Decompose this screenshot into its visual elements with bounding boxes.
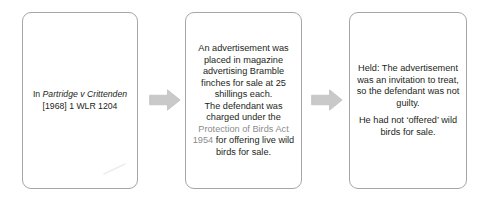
case-citation-box: In Partridge v Crittenden [1968] 1 WLR 1… bbox=[22, 12, 138, 189]
case-held-text: Held: The advertisement was an invitatio… bbox=[350, 63, 466, 138]
citation-prefix: In bbox=[33, 89, 43, 99]
held-paragraph-1: Held: The advertisement was an invitatio… bbox=[357, 63, 460, 108]
case-facts-text: An advertisement was placed in magazine … bbox=[186, 43, 301, 158]
case-held-box: Held: The advertisement was an invitatio… bbox=[349, 12, 467, 189]
case-citation-text: In Partridge v Crittenden [1968] 1 WLR 1… bbox=[23, 89, 137, 112]
citation-reference: [1968] 1 WLR 1204 bbox=[43, 101, 118, 111]
case-flow-diagram: In Partridge v Crittenden [1968] 1 WLR 1… bbox=[0, 0, 489, 200]
right-block-arrow-icon bbox=[311, 89, 343, 111]
case-facts-box: An advertisement was placed in magazine … bbox=[185, 12, 302, 189]
case-name-text: Partridge v Crittenden bbox=[43, 89, 128, 99]
facts-text-before-statute: An advertisement was placed in magazine … bbox=[198, 43, 288, 122]
facts-text-after-statute: for offering live wild birds for sale. bbox=[213, 135, 294, 157]
scan-artifact-mark bbox=[103, 163, 127, 175]
right-block-arrow-icon bbox=[149, 89, 181, 111]
held-paragraph-2: He had not ‘offered’ wild birds for sale… bbox=[359, 115, 457, 137]
